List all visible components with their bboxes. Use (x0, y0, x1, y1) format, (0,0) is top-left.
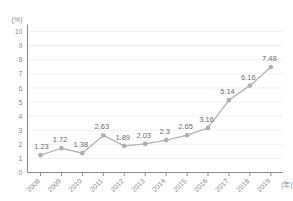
y-axis-tick-label: 3 (19, 127, 23, 134)
y-axis-tick-label: 2 (19, 141, 23, 148)
x-axis-tick-label: 2019 (256, 177, 272, 193)
x-axis-tick-label: 2015 (172, 177, 188, 193)
data-point-label: 2.65 (178, 122, 193, 131)
data-point-label: 5.14 (220, 87, 235, 96)
y-axis-tick-label: 6 (19, 85, 23, 92)
x-axis-tick-label: 2012 (109, 177, 125, 193)
data-point-label: 2.03 (136, 131, 151, 140)
x-axis-tick-label: 2014 (151, 177, 167, 193)
x-axis-tick-label: 2016 (193, 177, 209, 193)
data-point-label: 1.72 (53, 135, 68, 144)
data-point-label: 1.89 (115, 133, 130, 142)
x-axis-tick-label: 2010 (67, 177, 83, 193)
y-axis-tick-label: 1 (19, 155, 23, 162)
data-point-marker[interactable] (122, 143, 127, 148)
data-point-label: 2.63 (95, 122, 110, 131)
x-axis-unit-label: (年) (281, 180, 293, 189)
data-point-label: 2.3 (159, 127, 169, 136)
data-point-label: 3.16 (199, 115, 214, 124)
y-axis-tick-label: 9 (19, 42, 23, 49)
x-axis-tick-label: 2018 (235, 177, 251, 193)
data-point-marker[interactable] (164, 138, 169, 143)
data-point-marker[interactable] (59, 146, 64, 151)
data-point-marker[interactable] (80, 151, 85, 156)
data-point-marker[interactable] (206, 126, 211, 131)
data-point-marker[interactable] (143, 141, 148, 146)
line-chart: 012345678910(%)2008200920102011201220132… (0, 0, 293, 201)
data-point-marker[interactable] (268, 65, 273, 70)
data-point-label: 6.16 (241, 73, 256, 82)
data-point-marker[interactable] (227, 98, 232, 103)
x-axis-tick-label: 2013 (130, 177, 146, 193)
chart-canvas: 012345678910(%)2008200920102011201220132… (0, 0, 293, 201)
y-axis-tick-label: 5 (19, 99, 23, 106)
x-axis-tick-label: 2011 (88, 177, 104, 193)
y-axis-tick-label: 10 (15, 28, 23, 35)
data-point-label: 1.38 (74, 140, 89, 149)
data-point-label: 7.48 (262, 54, 277, 63)
data-point-label: 1.23 (34, 142, 49, 151)
data-point-marker[interactable] (38, 153, 43, 158)
y-axis-tick-label: 0 (19, 169, 23, 176)
y-axis-tick-label: 8 (19, 56, 23, 63)
y-axis-tick-label: 7 (19, 70, 23, 77)
y-axis-unit-label: (%) (12, 16, 23, 24)
data-point-marker[interactable] (101, 133, 106, 138)
data-point-marker[interactable] (248, 83, 253, 88)
data-point-marker[interactable] (185, 133, 190, 138)
x-axis-tick-label: 2009 (46, 177, 62, 193)
x-axis-tick-label: 2017 (214, 177, 230, 193)
y-axis-tick-label: 4 (19, 113, 23, 120)
x-axis-tick-label: 2008 (25, 177, 41, 193)
